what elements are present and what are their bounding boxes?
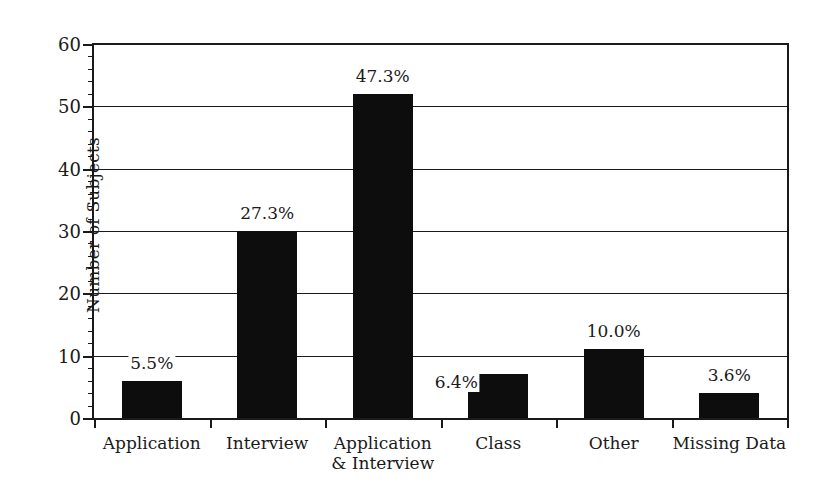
y-tick-minor <box>88 56 94 57</box>
x-category-label-line: & Interview <box>331 453 434 473</box>
y-tick-minor <box>88 281 94 282</box>
y-tick-major <box>83 293 94 295</box>
x-tick <box>210 418 212 428</box>
x-tick <box>787 418 789 428</box>
y-tick-minor <box>88 331 94 332</box>
x-tick <box>94 418 96 428</box>
y-tick-label: 50 <box>58 96 81 117</box>
x-category-label-line: Other <box>589 433 639 453</box>
y-tick-label: 30 <box>58 221 81 242</box>
y-tick-minor <box>88 94 94 95</box>
bar-value-label: 3.6% <box>706 365 753 385</box>
y-tick-major <box>83 106 94 108</box>
y-tick-label: 0 <box>70 408 81 429</box>
gridline <box>94 231 787 232</box>
y-tick-major <box>83 231 94 233</box>
y-tick-minor <box>88 406 94 407</box>
y-tick-minor <box>88 181 94 182</box>
x-category-label: Missing Data <box>672 433 786 453</box>
y-tick-label: 40 <box>58 158 81 179</box>
x-tick <box>556 418 558 428</box>
y-tick-minor <box>88 343 94 344</box>
y-tick-minor <box>88 69 94 70</box>
y-tick-major <box>83 356 94 358</box>
x-category-label: Interview <box>226 433 308 453</box>
gridline <box>94 356 787 357</box>
y-tick-minor <box>88 318 94 319</box>
x-category-label: Application& Interview <box>331 433 434 473</box>
bar <box>584 349 644 418</box>
bar-value-label: 5.5% <box>128 353 175 373</box>
bar <box>699 393 759 418</box>
x-category-label-line: Class <box>475 433 521 453</box>
y-tick-minor <box>88 131 94 132</box>
x-category-label-line: Application <box>331 433 434 453</box>
y-tick-label: 60 <box>58 34 81 55</box>
bar-value-label: 47.3% <box>354 66 412 86</box>
bar <box>237 231 297 418</box>
x-category-label: Other <box>589 433 639 453</box>
plot-area: Number of Subjects 6050403020100 Applica… <box>92 43 789 420</box>
x-tick <box>325 418 327 428</box>
x-category-label-line: Missing Data <box>672 433 786 453</box>
gridline <box>94 44 787 45</box>
bar <box>353 94 413 418</box>
y-tick-minor <box>88 368 94 369</box>
y-tick-minor <box>88 194 94 195</box>
y-tick-minor <box>88 268 94 269</box>
bar-value-label: 27.3% <box>238 203 296 223</box>
y-tick-minor <box>88 156 94 157</box>
bar <box>122 381 182 418</box>
bar-value-label: 6.4% <box>433 372 480 392</box>
x-category-label: Class <box>475 433 521 453</box>
y-tick-minor <box>88 119 94 120</box>
x-category-label-line: Application <box>103 433 201 453</box>
y-tick-minor <box>88 243 94 244</box>
gridline <box>94 169 787 170</box>
y-tick-major <box>83 169 94 171</box>
x-tick <box>672 418 674 428</box>
y-tick-minor <box>88 256 94 257</box>
y-tick-minor <box>88 381 94 382</box>
gridline <box>94 293 787 294</box>
y-tick-minor <box>88 393 94 394</box>
x-category-label: Application <box>103 433 201 453</box>
y-tick-major <box>83 44 94 46</box>
bar-chart-figure: Number of Subjects 6050403020100 Applica… <box>0 0 825 499</box>
y-tick-label: 10 <box>58 345 81 366</box>
x-tick <box>441 418 443 428</box>
y-tick-label: 20 <box>58 283 81 304</box>
bar-value-label: 10.0% <box>585 321 643 341</box>
y-tick-major <box>83 418 94 420</box>
y-tick-minor <box>88 219 94 220</box>
x-category-label-line: Interview <box>226 433 308 453</box>
y-axis-title: Number of Subjects <box>83 15 103 435</box>
gridline <box>94 106 787 107</box>
y-tick-minor <box>88 144 94 145</box>
y-tick-minor <box>88 81 94 82</box>
y-tick-minor <box>88 206 94 207</box>
y-tick-minor <box>88 306 94 307</box>
